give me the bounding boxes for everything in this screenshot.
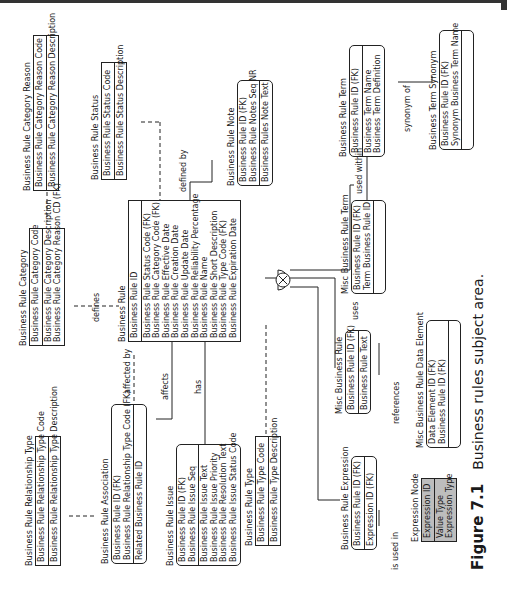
attribute: Business Rule Category Code	[31, 232, 41, 342]
entity-misc-business-rule[interactable]: Misc Business Rule Business Rule ID (FK)…	[334, 330, 378, 414]
entity-misc-business-rule-data-element[interactable]: Misc Business Rule Data Element Data Ele…	[415, 320, 465, 448]
entity-business-rule-note[interactable]: Business Rule Note Business Rule ID (FK)…	[226, 80, 276, 186]
entity-attributes: Business Rule ID (FK) Business Rule Note…	[237, 80, 273, 186]
label-synonym-of: synonym of	[403, 90, 413, 132]
entity-attributes: Business Rule ID (FK) Business Rule Issu…	[176, 444, 241, 566]
attribute: Business Rule Relationship Type Code (FK…	[123, 408, 133, 560]
entity-title: Expression Node	[410, 478, 421, 542]
attribute: Business Rule Expiration Date	[229, 204, 239, 338]
entity-business-rule[interactable]: Business Rule Business Rule ID Business …	[117, 200, 253, 342]
attribute: Business Rule ID (FK)	[441, 34, 451, 146]
attribute: Business Rule ID (FK)	[347, 334, 357, 410]
figure-caption: Figure 7.1 Business rules subject area.	[466, 325, 490, 570]
attribute: Business Rule Status Code	[103, 66, 113, 176]
attribute: Business Rule Category Reason CD (FK)	[53, 232, 63, 342]
label-uses: uses	[351, 300, 361, 320]
attribute: Business Rule Name	[200, 204, 210, 338]
attribute: Business Rule Type Code	[257, 440, 267, 542]
attribute: Business Rule ID (FK)	[353, 204, 363, 290]
attribute: Expression ID (FK)	[366, 460, 376, 546]
entity-title: Business Rule Category	[18, 228, 29, 346]
entity-attributes: Business Rule Status Code Business Rule …	[101, 62, 127, 180]
attribute: Business Rule Category Reason Descriptio…	[48, 39, 58, 187]
attribute: Business Rule ID (FK)	[178, 448, 188, 562]
attribute: Business Rule Category Code (FK)	[152, 204, 162, 338]
entity-title: Business Rule Term	[338, 45, 349, 157]
attribute: Business Rule Text	[360, 334, 370, 410]
attribute: Business Rule Status Code (FK)	[143, 204, 153, 338]
entity-title: Business Rule Status	[90, 62, 101, 180]
entity-attributes: Business Rule ID (FK) Term Business Rule…	[351, 200, 386, 294]
entity-business-rule-type[interactable]: Business Rule Type Business Rule Type Co…	[244, 436, 286, 546]
attribute: Term Business Rule ID	[363, 204, 373, 290]
entity-title: Business Rule Expression	[340, 456, 351, 550]
attribute: Business Rule Short Description	[210, 204, 220, 338]
entity-expression-node[interactable]: Expression Node Expression ID Value Type…	[410, 478, 462, 542]
attribute: Business Rule Issue Seq	[188, 448, 198, 562]
entity-attributes: Business Rule ID (FK) Business Rule Rela…	[111, 404, 147, 564]
entity-attributes: Business Rule Category Reason Code Busin…	[33, 35, 59, 191]
attribute: Data Element ID (FK)	[428, 324, 438, 444]
label-defines: defines	[92, 290, 102, 322]
entity-attributes: Business Rule Category Code Business Rul…	[29, 228, 65, 346]
attribute: Business Term Name	[364, 49, 374, 153]
entity-business-rule-term[interactable]: Business Rule Term Business Rule ID (FK)…	[338, 45, 394, 157]
attribute: Business Rule Effective Date	[162, 204, 172, 338]
attribute: Value Type	[436, 482, 446, 538]
entity-title: Business Rule	[117, 200, 128, 342]
attribute: Business Rule Type Description	[270, 440, 280, 542]
attribute: Business Rule Issue Text	[200, 448, 210, 562]
entity-title: Business Term Synonym	[428, 30, 439, 150]
entity-title: Business Rule Type	[244, 436, 255, 546]
entity-business-rule-status[interactable]: Business Rule Status Business Rule Statu…	[90, 62, 132, 180]
entity-business-rule-issue[interactable]: Business Rule Issue Business Rule ID (FK…	[165, 444, 241, 566]
attribute: Business Rule Reliability Percentage	[191, 204, 201, 338]
attribute: Business Rule ID (FK)	[438, 324, 448, 444]
attribute: Business Rule ID	[130, 204, 140, 338]
attribute: Business Rules Note Text	[261, 84, 271, 182]
entity-attributes: Business Rule ID Business Rule Status Co…	[128, 200, 241, 342]
attribute: Business Rule Category Description	[44, 232, 54, 342]
entity-title: Business Rule Association	[100, 404, 111, 564]
entity-attributes: Business Rule Relationship Type Code Bus…	[35, 436, 61, 566]
attribute: Related Business Rule ID	[135, 408, 145, 560]
entity-attributes: Business Rule ID (FK) Synonym Business T…	[439, 30, 474, 150]
label-used-within: used within	[355, 150, 365, 194]
entity-title: Business Rule Category Reason	[22, 35, 33, 191]
entity-title: Business Rule Relationship Type	[24, 436, 35, 566]
attribute: Business Rule Creation Date	[171, 204, 181, 338]
attribute: Business Rule Issue Priority	[210, 448, 220, 562]
attribute: Expression ID	[423, 482, 433, 538]
entity-title: Business Rule Issue	[165, 444, 176, 566]
entity-title: Misc Business Rule Term	[340, 200, 351, 294]
entity-attributes: Business Rule ID (FK) Expression ID (FK)	[351, 456, 377, 550]
label-is-used-in: is used in	[391, 530, 401, 570]
entity-title: Misc Business Rule Data Element	[415, 320, 426, 448]
attribute: Business Rule Category Reason Code	[35, 39, 45, 187]
entity-business-term-synonym[interactable]: Business Term Synonym Business Rule ID (…	[428, 30, 478, 150]
attribute: Business Rule ID (FK)	[113, 408, 123, 560]
label-defined-by: defined by	[179, 150, 189, 192]
label-references: references	[392, 380, 402, 424]
attribute: Business Rule Resolution Text	[219, 448, 229, 562]
entity-business-rule-category-reason[interactable]: Business Rule Category Reason Business R…	[22, 35, 66, 191]
entity-attributes: Data Element ID (FK) Business Rule ID (F…	[426, 320, 461, 448]
entity-attributes: Business Rule Type Code Business Rule Ty…	[255, 436, 281, 546]
label-affected-by: affected by	[123, 350, 133, 394]
entity-misc-business-rule-term[interactable]: Misc Business Rule Term Business Rule ID…	[340, 200, 390, 294]
entity-business-rule-relationship-type[interactable]: Business Rule Relationship Type Business…	[24, 436, 70, 566]
entity-business-rule-category[interactable]: Business Rule Category Business Rule Cat…	[18, 228, 70, 346]
entity-business-rule-association[interactable]: Business Rule Association Business Rule …	[100, 404, 152, 564]
entity-attributes: Expression ID Value Type Expression Type	[421, 478, 457, 542]
attribute: Business Rule ID (FK)	[351, 49, 361, 153]
entity-attributes: Business Rule ID (FK) Business Term Name…	[349, 45, 385, 157]
attribute: Business Rule Issue Status Code	[229, 448, 239, 562]
attribute: Business Rule ID (FK)	[239, 84, 249, 182]
entity-attributes: Business Rule ID (FK) Business Rule Text	[345, 330, 371, 414]
attribute: Expression Type	[445, 482, 455, 538]
label-has: has	[194, 378, 204, 394]
entity-title: Misc Business Rule	[334, 330, 345, 414]
entity-business-rule-expression[interactable]: Business Rule Expression Business Rule I…	[340, 456, 382, 550]
figure-caption-text: Business rules subject area.	[470, 274, 486, 470]
attribute: Business Rule Status Description	[116, 66, 126, 176]
